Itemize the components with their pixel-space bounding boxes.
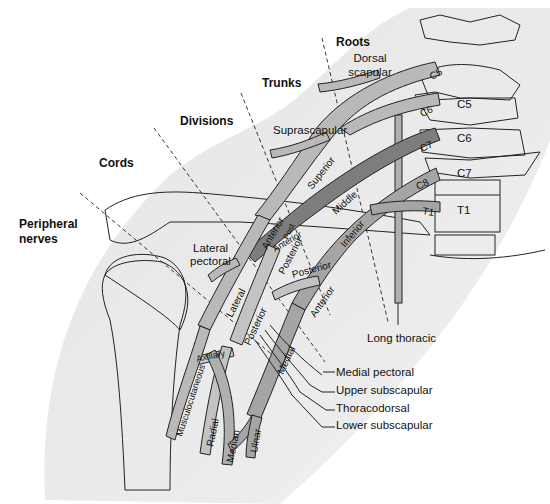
vertebra-label-c5: C5 (457, 98, 472, 110)
header-roots: Roots (336, 35, 370, 49)
label-lateral-pectoral-1: Lateral (193, 242, 228, 254)
label-lower-subscapular: Lower subscapular (336, 419, 433, 431)
label-dorsal-scapular-1: Dorsal (353, 52, 386, 64)
header-divisions: Divisions (180, 114, 234, 128)
vertebra-label-c7: C7 (457, 167, 472, 179)
label-dorsal-scapular-2: scapular (348, 66, 392, 78)
header-trunks: Trunks (262, 76, 302, 90)
header-peripheral-nerves-line2: nerves (19, 232, 58, 246)
header-cords: Cords (99, 156, 134, 170)
vertebra-label-c6: C6 (457, 132, 472, 144)
brachial-plexus-diagram: C5 C6 C7 T1 (0, 0, 550, 504)
label-long-thoracic: Long thoracic (367, 332, 436, 344)
label-medial-pectoral: Medial pectoral (336, 366, 414, 378)
label-lateral-pectoral-2: pectoral (190, 255, 231, 267)
root-label-t1: T1 (422, 205, 436, 218)
vertebra-label-t1: T1 (457, 204, 470, 216)
header-peripheral-nerves-line1: Peripheral (19, 217, 78, 231)
label-suprascapular: Suprascapular (273, 124, 347, 136)
label-thoracodorsal: Thoracodorsal (336, 402, 410, 414)
label-upper-subscapular: Upper subscapular (336, 384, 433, 396)
